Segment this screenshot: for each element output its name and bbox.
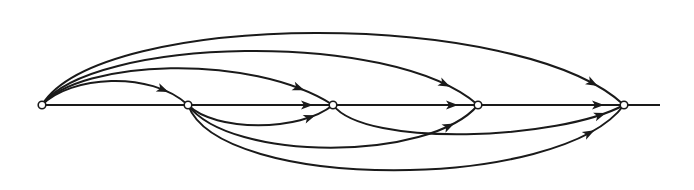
node-n5 bbox=[620, 101, 628, 109]
edge-n2-n4-below bbox=[188, 105, 478, 148]
edge-n1-n5-above bbox=[42, 33, 624, 105]
node-n2 bbox=[184, 101, 192, 109]
edge-n1-n2-above bbox=[42, 81, 188, 105]
node-n4 bbox=[474, 101, 482, 109]
edge-n1-n3-above bbox=[42, 68, 333, 105]
edges-layer bbox=[42, 33, 660, 170]
edge-n1-n4-above bbox=[42, 51, 478, 105]
directed-graph bbox=[0, 0, 694, 190]
edge-n2-n5-below bbox=[188, 105, 624, 170]
node-n3 bbox=[329, 101, 337, 109]
node-n1 bbox=[38, 101, 46, 109]
